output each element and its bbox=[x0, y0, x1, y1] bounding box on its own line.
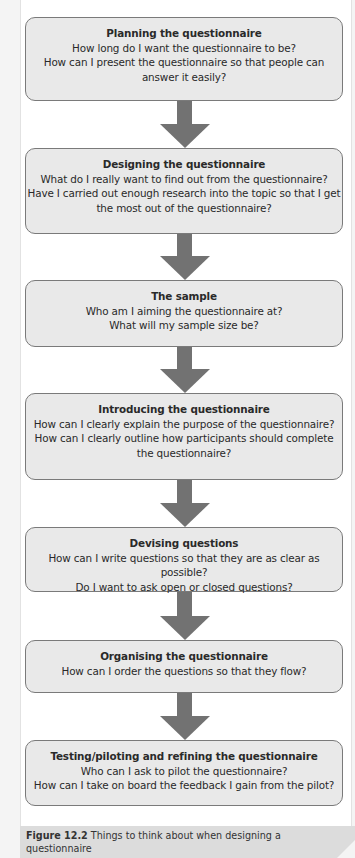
step-title: Organising the questionnaire bbox=[26, 649, 342, 664]
step-question: the most out of the questionnaire? bbox=[26, 201, 342, 216]
step-question: How can I clearly outline how participan… bbox=[26, 431, 342, 446]
step-question: How can I clearly explain the purpose of… bbox=[26, 417, 342, 432]
step-title: Planning the questionnaire bbox=[26, 26, 342, 41]
down-arrow-icon bbox=[155, 234, 215, 280]
step-question: How can I present the questionnaire so t… bbox=[26, 55, 342, 70]
step-organising: Organising the questionnaire How can I o… bbox=[25, 640, 343, 693]
down-arrow-icon bbox=[155, 480, 215, 527]
step-title: Testing/piloting and refining the questi… bbox=[26, 749, 342, 764]
down-arrow-icon bbox=[155, 693, 215, 740]
step-testing-piloting: Testing/piloting and refining the questi… bbox=[25, 740, 343, 806]
page-corner bbox=[337, 840, 355, 858]
step-sample: The sample Who am I aiming the questionn… bbox=[25, 280, 343, 347]
step-devising-questions: Devising questions How can I write quest… bbox=[25, 527, 343, 592]
step-introducing: Introducing the questionnaire How can I … bbox=[25, 393, 343, 480]
step-title: Introducing the questionnaire bbox=[26, 402, 342, 417]
step-question: How can I write questions so that they a… bbox=[26, 551, 342, 580]
step-question: What do I really want to find out from t… bbox=[26, 172, 342, 187]
down-arrow-icon bbox=[155, 347, 215, 393]
down-arrow-icon bbox=[155, 101, 215, 148]
step-question: Who am I aiming the questionnaire at? bbox=[26, 304, 342, 319]
step-question: Who can I ask to pilot the questionnaire… bbox=[26, 764, 342, 779]
step-designing: Designing the questionnaire What do I re… bbox=[25, 148, 343, 234]
step-question: the questionnaire? bbox=[26, 446, 342, 461]
step-question: How can I take on board the feedback I g… bbox=[26, 778, 342, 793]
step-question: What will my sample size be? bbox=[26, 318, 342, 333]
figure-label: Figure 12.2 bbox=[26, 830, 88, 841]
step-title: Designing the questionnaire bbox=[26, 157, 342, 172]
figure-caption: Figure 12.2 Things to think about when d… bbox=[20, 826, 355, 858]
step-title: Devising questions bbox=[26, 536, 342, 551]
step-question: How long do I want the questionnaire to … bbox=[26, 41, 342, 56]
step-question: Have I carried out enough research into … bbox=[26, 186, 342, 201]
down-arrow-icon bbox=[155, 592, 215, 640]
step-planning: Planning the questionnaire How long do I… bbox=[25, 17, 343, 101]
step-question: answer it easily? bbox=[26, 70, 342, 85]
step-question: How can I order the questions so that th… bbox=[26, 664, 342, 679]
step-title: The sample bbox=[26, 289, 342, 304]
